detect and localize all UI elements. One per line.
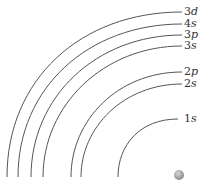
- arc-3p: [31, 35, 182, 177]
- orbital-shell-diagram: 3d 4s 3p 3s 2p 2s 1s: [0, 0, 200, 187]
- arc-2p: [71, 72, 182, 177]
- arc-3s: [43, 46, 182, 177]
- label-3d: 3d: [184, 6, 198, 17]
- arc-4s: [18, 24, 182, 177]
- nucleus-icon: [174, 170, 184, 180]
- arc-1s: [118, 119, 178, 177]
- label-1s: 1s: [184, 113, 197, 124]
- label-2p: 2p: [184, 66, 198, 77]
- arc-2s: [81, 84, 182, 177]
- label-2s: 2s: [184, 78, 197, 89]
- shell-arcs: [0, 0, 200, 187]
- label-3s: 3s: [184, 40, 197, 51]
